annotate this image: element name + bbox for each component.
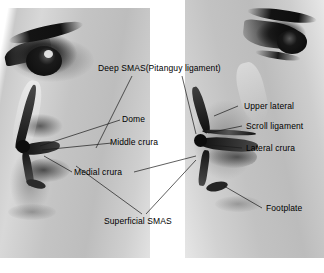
- leader-line-group: [0, 0, 324, 273]
- label-scroll-ligament: Scroll ligament: [246, 121, 303, 131]
- leader-upper-lateral: [214, 106, 238, 116]
- anatomical-figure: Deep SMAS(Pitanguy ligament) Dome Middle…: [0, 0, 324, 273]
- leader-scroll-ligament: [208, 126, 242, 133]
- leader-medial-crura-left: [44, 156, 72, 172]
- leader-dome: [40, 120, 120, 146]
- label-lateral-crura: Lateral crura: [246, 143, 295, 153]
- label-middle-crura: Middle crura: [110, 137, 158, 147]
- leader-footplate: [224, 186, 262, 208]
- label-dome: Dome: [122, 114, 145, 124]
- label-deep-smas: Deep SMAS(Pitanguy ligament): [98, 63, 221, 73]
- label-upper-lateral: Upper lateral: [244, 101, 294, 111]
- leader-deep-smas-right: [182, 76, 196, 134]
- label-superficial-smas: Superficial SMAS: [104, 216, 172, 226]
- leader-lateral-crura: [210, 145, 242, 148]
- leader-middle-crura: [42, 143, 112, 150]
- leader-superficial-smas-right: [146, 160, 196, 214]
- label-footplate: Footplate: [266, 203, 302, 213]
- label-medial-crura: Medial crura: [74, 167, 122, 177]
